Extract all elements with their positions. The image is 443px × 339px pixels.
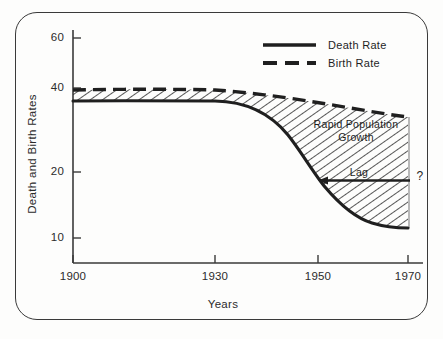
y-tick-label-10: 10 bbox=[38, 231, 64, 243]
annotation-lag: Lag bbox=[336, 166, 382, 178]
annotation-rapid-line-1: Rapid Population bbox=[300, 118, 412, 131]
legend-label-birth-rate: Birth Rate bbox=[328, 57, 380, 69]
chart-page: 60 40 20 10 1900 1930 1950 1970 Death an… bbox=[0, 0, 443, 339]
y-tick-label-60: 60 bbox=[38, 31, 64, 43]
x-tick-label-1970: 1970 bbox=[389, 270, 427, 282]
y-tick-label-40: 40 bbox=[38, 81, 64, 93]
y-axis-title: Death and Birth Rates bbox=[26, 89, 38, 219]
x-tick-label-1900: 1900 bbox=[54, 270, 92, 282]
x-tick-label-1930: 1930 bbox=[196, 270, 234, 282]
y-tick-label-20: 20 bbox=[38, 165, 64, 177]
annotation-question-mark: ? bbox=[413, 169, 427, 183]
y-axis-ticks bbox=[73, 38, 81, 238]
annotation-rapid-line-2: Growth bbox=[300, 131, 412, 144]
x-axis-title: Years bbox=[178, 298, 268, 310]
legend-label-death-rate: Death Rate bbox=[328, 39, 387, 51]
x-axis-ticks bbox=[73, 255, 408, 263]
x-tick-label-1950: 1950 bbox=[299, 270, 337, 282]
annotation-rapid-population-growth: Rapid Population Growth bbox=[300, 118, 412, 143]
